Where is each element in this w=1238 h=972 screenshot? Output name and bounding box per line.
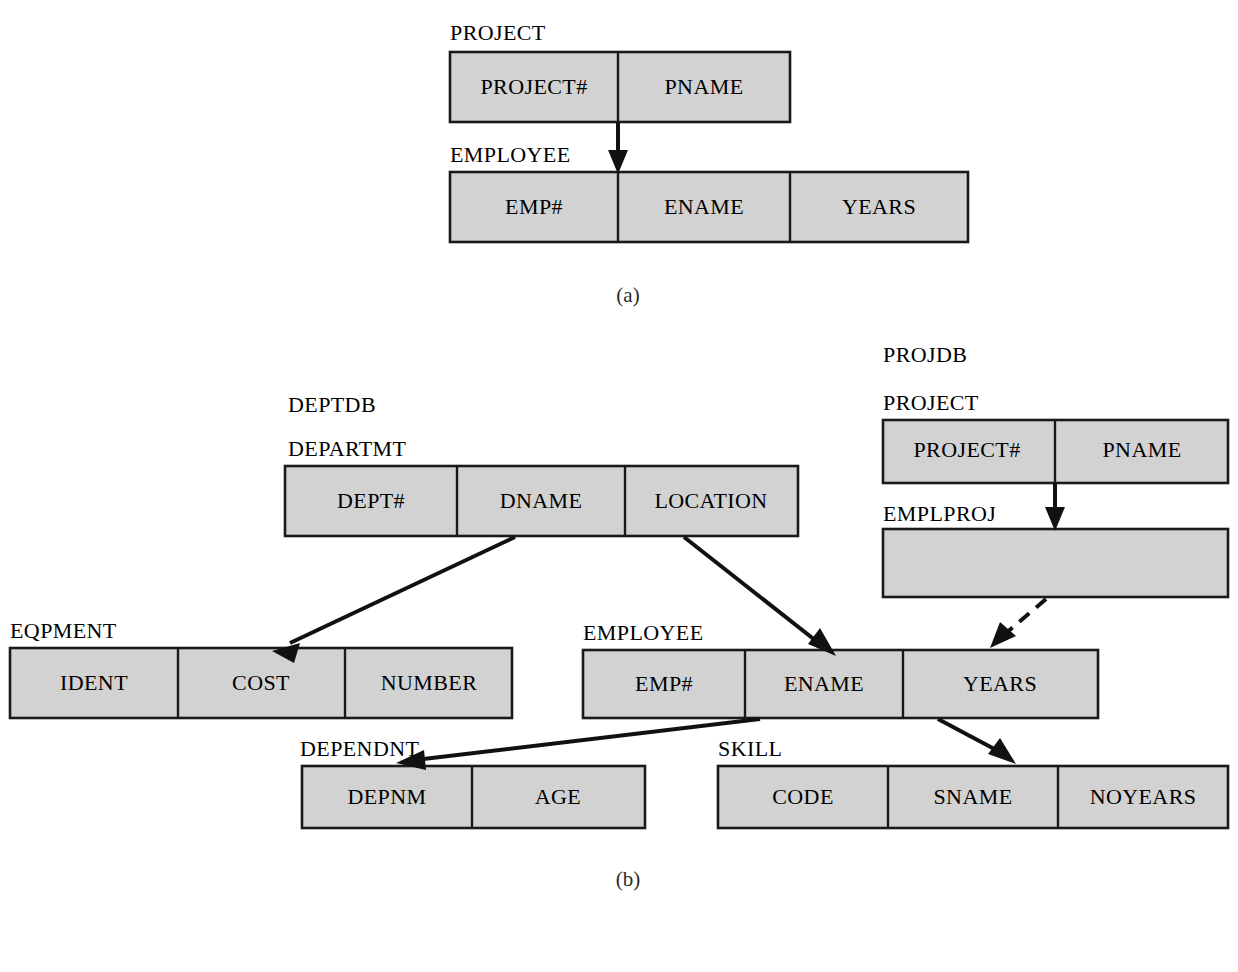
column-cell-ename: ENAME [784,671,864,696]
column-cell-depnm: DEPNM [347,784,426,809]
column-cell-emp-number: EMP# [635,671,693,696]
link-project-to-employee-a [608,122,628,174]
table-employee-a: EMP# ENAME YEARS [450,172,968,242]
diagram-canvas: PROJECT PROJECT# PNAME EMPLOYEE EMP# ENA… [0,0,1238,972]
arrow-head-icon [608,150,628,174]
column-cell-ename: ENAME [664,194,744,219]
table-dependnt: DEPNM AGE [302,766,645,828]
table-title-project-a: PROJECT [450,20,546,45]
panel-caption-b: (b) [616,867,641,891]
table-title-eqpment: EQPMENT [10,618,117,643]
database-label-deptdb: DEPTDB [288,392,376,417]
table-title-project-b: PROJECT [883,390,979,415]
column-cell-years: YEARS [963,671,1037,696]
panel-b: DEPTDB DEPARTMT DEPT# DNAME LOCATION EQP… [10,342,1228,891]
table-project-b: PROJECT# PNAME [883,420,1228,483]
column-cell-dept-number: DEPT# [337,488,405,513]
column-cell-pname: PNAME [1102,437,1181,462]
table-departmt: DEPT# DNAME LOCATION [285,466,798,536]
arrow-head-icon [990,622,1016,648]
table-box [883,529,1228,597]
link-line [290,537,515,643]
link-emplproj-to-employee-years [990,599,1046,648]
column-cell-sname: SNAME [933,784,1012,809]
link-employee-to-dependnt [396,719,760,770]
table-title-emplproj: EMPLPROJ [883,501,996,526]
link-line [684,537,820,644]
table-skill: CODE SNAME NOYEARS [718,766,1228,828]
table-title-employee-b: EMPLOYEE [583,620,704,645]
link-line [1005,599,1046,634]
column-cell-project-number: PROJECT# [480,74,587,99]
panel-caption-a: (a) [616,283,639,307]
arrow-head-icon [988,738,1016,764]
column-cell-pname: PNAME [664,74,743,99]
column-cell-years: YEARS [842,194,916,219]
column-cell-ident: IDENT [60,670,128,695]
link-project-to-emplproj [1045,483,1065,531]
column-cell-emp-number: EMP# [505,194,563,219]
column-cell-noyears: NOYEARS [1090,784,1197,809]
table-title-departmt: DEPARTMT [288,436,407,461]
table-eqpment: IDENT COST NUMBER [10,648,512,718]
table-title-skill: SKILL [718,736,782,761]
link-line [938,719,1000,752]
column-cell-code: CODE [772,784,834,809]
column-cell-dname: DNAME [500,488,583,513]
link-line [415,719,760,760]
table-emplproj [883,529,1228,597]
column-cell-number: NUMBER [381,670,478,695]
column-cell-age: AGE [535,784,581,809]
table-title-dependnt: DEPENDNT [300,736,419,761]
table-employee-b: EMP# ENAME YEARS [583,650,1098,718]
database-label-projdb: PROJDB [883,342,967,367]
panel-a: PROJECT PROJECT# PNAME EMPLOYEE EMP# ENA… [450,20,968,307]
column-cell-project-number: PROJECT# [913,437,1020,462]
link-departmt-to-employee [684,537,836,656]
column-cell-location: LOCATION [654,488,767,513]
schema-diagram: PROJECT PROJECT# PNAME EMPLOYEE EMP# ENA… [0,0,1238,972]
link-departmt-to-eqpment [272,537,515,663]
column-cell-cost: COST [232,670,290,695]
arrow-head-icon [1045,507,1065,531]
table-project-a: PROJECT# PNAME [450,52,790,122]
link-employee-to-skill [938,719,1016,764]
table-title-employee-a: EMPLOYEE [450,142,571,167]
